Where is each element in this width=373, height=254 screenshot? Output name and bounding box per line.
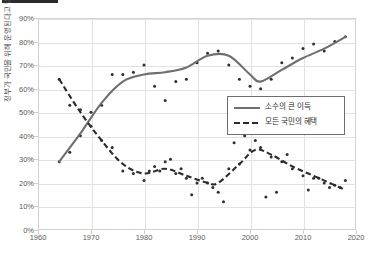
scatter-point [238,78,241,81]
legend-solid-line-icon [234,103,260,113]
scatter-point [217,191,220,194]
scatter-point [121,73,124,76]
scatter-point [227,167,230,170]
y-tick-label: 80% [2,37,34,46]
scatter-point [121,170,124,173]
scatter-point [249,148,252,151]
y-tick-label: 50% [2,108,34,117]
scatter-point [190,193,193,196]
x-tick-label: 1980 [124,233,164,242]
scatter-point [302,174,305,177]
x-tick-label: 2020 [336,233,373,242]
scatter-point [233,141,236,144]
scatter-point [217,49,220,52]
scatter-point [185,78,188,81]
y-tick-label: 20% [2,178,34,187]
x-tick-mark [38,230,39,234]
scatter-point [328,186,331,189]
legend-dashed-line-icon [234,118,260,128]
scatter-point [143,179,146,182]
scatter-point [111,73,114,76]
scatter-point [164,160,167,163]
legend-label-0: 소수의 큰 이득 [265,102,310,112]
scatter-point [164,99,167,102]
scatter-point [254,139,257,142]
x-tick-label: 2010 [283,233,323,242]
scatter-point [174,172,177,175]
scatter-point [68,151,71,154]
scatter-point [153,165,156,168]
x-tick-label: 2000 [230,233,270,242]
scatter-point [227,64,230,67]
legend-label-1: 모든 국민의 혜택 [265,117,317,127]
chart-root: 정부가 국민을 위해 운영된다고 말하는 비율 0%10%20%30%40%50… [0,0,373,254]
scatter-point [132,172,135,175]
scatter-point [270,155,273,158]
x-tick-mark [303,230,304,234]
scatter-point [280,61,283,64]
scatter-point [249,85,252,88]
scatter-point [259,87,262,90]
x-tick-mark [144,230,145,234]
scatter-point [211,186,214,189]
scatter-point [158,170,161,173]
chart-legend: 소수의 큰 이득 모든 국민의 혜택 [227,96,345,135]
y-tick-label: 30% [2,155,34,164]
legend-item-0[interactable]: 소수의 큰 이득 [234,102,338,113]
y-tick-label: 90% [2,14,34,23]
scatter-point [169,158,172,161]
scatter-point [174,80,177,83]
scatter-point [286,153,289,156]
scatter-point [307,188,310,191]
scatter-point [143,64,146,67]
x-tick-label: 1960 [18,233,58,242]
scatter-point [153,85,156,88]
scatter-point [312,42,315,45]
scatter-point [302,47,305,50]
scatter-point [132,71,135,74]
y-tick-label: 10% [2,202,34,211]
y-tick-label: 40% [2,131,34,140]
x-tick-mark [197,230,198,234]
scatter-point [291,57,294,60]
scatter-point [180,167,183,170]
scatter-point [196,181,199,184]
legend-item-1[interactable]: 모든 국민의 혜택 [234,117,338,128]
x-tick-label: 1990 [177,233,217,242]
scatter-point [264,196,267,199]
x-tick-mark [250,230,251,234]
scatter-point [90,111,93,114]
scatter-point [68,104,71,107]
x-tick-label: 1970 [71,233,111,242]
scatter-point [275,191,278,194]
scatter-point [201,177,204,180]
scatter-point [222,200,225,203]
x-tick-mark [356,230,357,234]
x-tick-mark [91,230,92,234]
scatter-point [344,179,347,182]
y-tick-label: 60% [2,84,34,93]
y-tick-label: 70% [2,61,34,70]
scatter-point [111,146,114,149]
